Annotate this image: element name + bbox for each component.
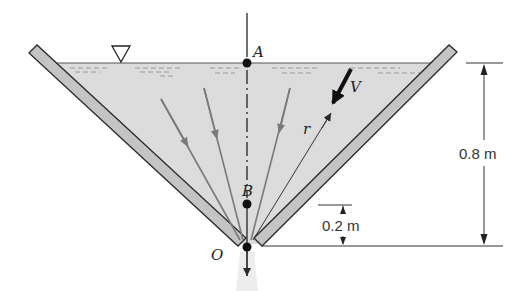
label-b: B: [241, 182, 253, 200]
point-o: [243, 243, 252, 252]
free-surface-symbol-icon: [112, 46, 130, 62]
dimension-arrow-up-small: [340, 206, 346, 214]
dimension-arrow-down: [481, 234, 488, 245]
conical-tank-diagram: A B O V r 0.8 m 0.2 m: [0, 0, 530, 291]
dimension-b-height-label: 0.2 m: [322, 217, 360, 234]
dimension-arrow-down-small: [340, 237, 346, 245]
label-o: O: [211, 246, 223, 264]
dimension-arrow-up: [481, 64, 488, 75]
label-r: r: [303, 120, 311, 138]
label-a: A: [251, 43, 264, 61]
point-b: [243, 200, 252, 209]
dimension-total-depth-label: 0.8 m: [459, 145, 497, 162]
point-a: [243, 59, 252, 68]
